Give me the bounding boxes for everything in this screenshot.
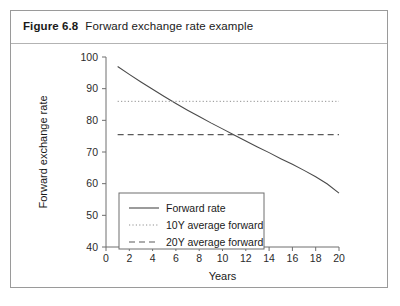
x-tick-label: 4 [150,252,156,264]
y-tick-label: 80 [86,114,98,126]
x-tick-label: 6 [173,252,179,264]
x-tick-label: 16 [287,252,299,264]
y-tick-label: 60 [86,177,98,189]
x-tick-label: 10 [217,252,229,264]
legend-label: Forward rate [166,202,226,214]
chart-plot-area: 40506070809010002468101214161820 Forward… [11,11,389,289]
y-tick-label: 100 [80,51,98,63]
y-tick-label: 50 [86,209,98,221]
x-tick-label: 0 [103,252,109,264]
y-tick-label: 70 [86,146,98,158]
y-tick-label: 40 [86,241,98,253]
x-tick-label: 12 [240,252,252,264]
legend-label: 20Y average forward [166,236,263,248]
y-tick-label: 90 [86,82,98,94]
legend-label: 10Y average forward [166,219,263,231]
x-tick-label: 2 [126,252,132,264]
x-tick-label: 18 [310,252,322,264]
chart-series-group [118,67,339,194]
y-axis-title: Forward exchange rate [37,95,49,208]
x-tick-label: 14 [263,252,275,264]
series-line-forward-rate [118,67,339,194]
x-axis-title: Years [209,270,237,282]
x-tick-label: 20 [333,252,345,264]
chart-legend: Forward rate10Y average forward20Y avera… [119,193,264,249]
figure-container: Figure 6.8Forward exchange rate example … [10,10,388,288]
chart-axis-titles: YearsForward exchange rate [37,95,237,282]
x-tick-label: 8 [196,252,202,264]
